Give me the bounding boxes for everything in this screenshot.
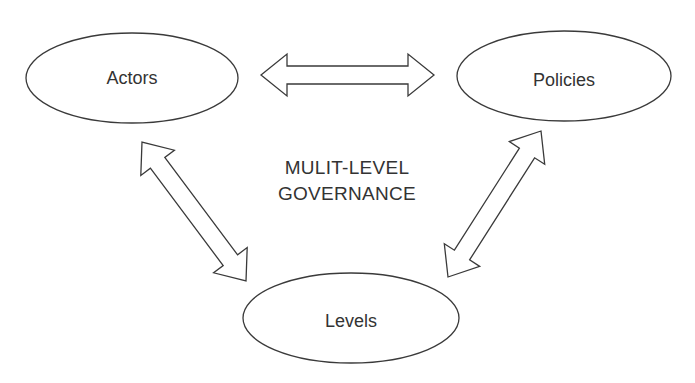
- node-actors: Actors: [26, 33, 238, 123]
- title-line-2: GOVERNANCE: [278, 183, 416, 204]
- policies-label: Policies: [533, 70, 595, 90]
- governance-diagram: Actors Policies Levels MULIT-LEVEL GOVER…: [0, 0, 695, 383]
- arrow-actors-levels: [141, 142, 247, 281]
- node-policies: Policies: [457, 31, 671, 121]
- actors-label: Actors: [106, 68, 157, 88]
- center-title: MULIT-LEVEL GOVERNANCE: [278, 157, 416, 204]
- levels-label: Levels: [325, 311, 377, 331]
- node-levels: Levels: [243, 273, 459, 363]
- arrow-policies-levels: [444, 131, 544, 277]
- title-line-1: MULIT-LEVEL: [285, 157, 410, 178]
- arrow-actors-policies: [261, 54, 434, 96]
